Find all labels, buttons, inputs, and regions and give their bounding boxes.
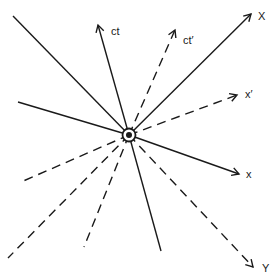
ct-axis-label: ct <box>111 25 120 37</box>
ct-prime-axis <box>129 30 175 135</box>
ct-prime-axis-extension <box>84 135 129 247</box>
origin-event <box>123 129 136 142</box>
spacetime-diagram: ctct′Xx′xY <box>0 0 280 280</box>
X-axis-extension <box>8 135 129 258</box>
x-prime-axis <box>129 95 237 135</box>
x-axis <box>129 135 239 174</box>
ct-prime-axis-label: ct′ <box>183 34 194 46</box>
x-prime-axis-extension <box>21 135 129 182</box>
X-axis-label: X <box>258 10 266 22</box>
X-axis <box>129 14 251 135</box>
x-prime-axis-label: x′ <box>245 88 253 100</box>
x-axis-label: x <box>246 168 252 180</box>
Y-axis-label: Y <box>262 262 270 274</box>
